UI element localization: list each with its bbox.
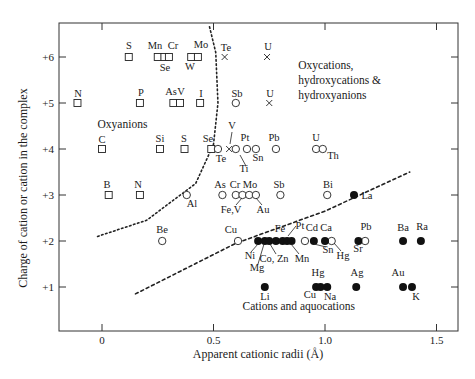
open-circle-marker: [319, 145, 326, 152]
point-label: Fe: [275, 223, 286, 234]
point-label: La: [361, 190, 372, 201]
region-label: hydroxycations &: [298, 74, 381, 87]
square-marker: [170, 100, 177, 107]
square-marker: [177, 100, 184, 107]
point-label: Au: [392, 267, 406, 278]
point-label: Sb: [231, 88, 242, 99]
point-label: Ba: [397, 222, 409, 233]
leader-line: [288, 226, 296, 236]
square-marker: [74, 100, 81, 107]
filled-circle-marker: [310, 237, 318, 245]
point-label: S: [181, 133, 187, 144]
point-label: Al: [187, 198, 198, 209]
scatter-chart: 00.51.01.5+1+2+3+4+5+6 SMnCrSeMoWTeUNPAs…: [0, 0, 475, 379]
point-label: Co, Zn: [259, 253, 289, 264]
point-label: Mn: [148, 40, 163, 51]
point-label: Cd: [306, 222, 319, 233]
open-circle-marker: [272, 145, 279, 152]
point-label: As: [214, 179, 226, 190]
square-marker: [181, 146, 188, 153]
point-label: W: [185, 61, 195, 72]
square-marker: [165, 54, 172, 61]
point-label: Te: [216, 153, 227, 164]
filled-circle-marker: [352, 283, 360, 291]
x-tick-label: 0: [99, 334, 105, 346]
point-label: Se: [203, 133, 214, 144]
region-label: Oxyanions: [98, 118, 148, 131]
chart-canvas: 00.51.01.5+1+2+3+4+5+6 SMnCrSeMoWTeUNPAs…: [0, 0, 475, 379]
filled-circle-marker: [350, 191, 358, 199]
open-circle-marker: [219, 191, 226, 198]
x-tick-label: 0.5: [207, 334, 221, 346]
point-label: Sn: [322, 244, 334, 255]
point-label: C: [98, 134, 105, 145]
point-label: Mn: [295, 253, 310, 264]
y-tick-label: +4: [42, 143, 54, 155]
y-tick-label: +1: [42, 281, 54, 293]
y-axis-label: Charge of cation or cation in the comple…: [16, 88, 30, 287]
y-tick-label: +2: [42, 235, 54, 247]
point-label: Cu: [304, 289, 317, 300]
point-label: Si: [156, 133, 165, 144]
y-tick-label: +5: [42, 97, 54, 109]
square-marker: [136, 100, 143, 107]
point-label: Pt: [296, 220, 305, 231]
leader-line: [230, 132, 232, 144]
y-tick-label: +6: [42, 51, 54, 63]
open-circle-marker: [243, 145, 250, 152]
filled-circle-marker: [417, 237, 425, 245]
point-label: Se: [160, 62, 171, 73]
point-label: Mo: [243, 179, 258, 190]
open-circle-marker: [301, 237, 308, 244]
square-marker: [197, 100, 204, 107]
square-marker: [105, 192, 112, 199]
cross-marker: [266, 100, 272, 106]
filled-circle-marker: [408, 283, 416, 291]
point-label: K: [412, 291, 420, 302]
point-label: Bi: [323, 179, 333, 190]
point-label: Ti: [240, 163, 249, 174]
x-tick-label: 1.5: [430, 334, 444, 346]
square-marker: [99, 146, 106, 153]
open-circle-marker: [232, 99, 239, 106]
square-marker: [156, 146, 163, 153]
cross-marker: [222, 54, 228, 60]
point-label: Cu: [225, 224, 238, 235]
y-tick-label: +3: [42, 189, 54, 201]
filled-circle-marker: [399, 237, 407, 245]
point-label: Pt: [241, 132, 250, 143]
filled-circle-marker: [399, 283, 407, 291]
point-label: Ni: [245, 250, 256, 261]
point-label: U: [264, 41, 272, 52]
point-label: Sb: [273, 179, 284, 190]
filled-circle-marker: [288, 237, 296, 245]
point-label: Ca: [320, 222, 332, 233]
point-label: U: [312, 132, 320, 143]
point-label: Mo: [194, 39, 209, 50]
cross-marker: [264, 54, 270, 60]
point-label: S: [126, 40, 132, 51]
square-marker: [194, 54, 201, 61]
point-label: U: [266, 88, 274, 99]
point-label: P: [138, 87, 144, 98]
point-label: As: [165, 86, 177, 97]
point-label: V: [228, 120, 236, 131]
point-label: Cr: [168, 40, 179, 51]
point-label: Pb: [360, 221, 371, 232]
region-label: Cations and aquocations: [242, 300, 355, 313]
point-label: Ag: [351, 267, 365, 278]
square-marker: [154, 54, 161, 61]
x-axis-label: Apparent cationic radii (Å): [193, 347, 323, 361]
region-label: hydroxyanions: [298, 89, 367, 102]
filled-circle-marker: [261, 283, 269, 291]
point-label: V: [177, 86, 185, 97]
square-marker: [136, 192, 143, 199]
point-label: N: [134, 179, 142, 190]
point-label: N: [74, 88, 82, 99]
point-label: Hg: [337, 250, 351, 261]
open-circle-marker: [277, 191, 284, 198]
square-marker: [208, 146, 215, 153]
point-label: Cr: [230, 179, 241, 190]
open-circle-marker: [234, 237, 241, 244]
point-label: B: [103, 179, 110, 190]
